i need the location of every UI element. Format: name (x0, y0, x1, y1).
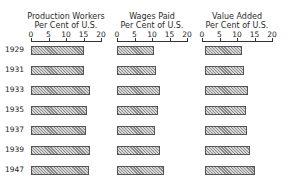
tick-label: 15 (248, 30, 262, 39)
tick-label: 5 (213, 30, 227, 39)
tick-label: 10 (145, 30, 159, 39)
tick-label: 15 (77, 30, 91, 39)
panel-title-line2: Per Cent of U.S. (107, 21, 197, 30)
panel-title: Production WorkersPer Cent of U.S. (21, 12, 111, 30)
panel-title-line2: Per Cent of U.S. (21, 21, 111, 30)
year-label: 1937 (2, 125, 24, 134)
tick-label: 15 (163, 30, 177, 39)
year-label: 1935 (2, 105, 24, 114)
panel-title-line1: Wages Paid (107, 12, 197, 21)
bar (117, 166, 164, 175)
tick-label: 0 (110, 30, 124, 39)
bar (117, 146, 160, 155)
tick-label: 10 (59, 30, 73, 39)
bar (31, 86, 90, 95)
year-label: 1933 (2, 85, 24, 94)
bar (205, 46, 242, 55)
panel-title-line2: Per Cent of U.S. (192, 21, 282, 30)
bar (117, 106, 158, 115)
bar (117, 46, 154, 55)
year-label: 1929 (2, 45, 24, 54)
panel-title-line1: Production Workers (21, 12, 111, 21)
bar (31, 126, 86, 135)
year-label: 1931 (2, 65, 24, 74)
year-label: 1939 (2, 145, 24, 154)
year-label: 1947 (2, 165, 24, 174)
bar (205, 86, 248, 95)
bar (31, 166, 89, 175)
bar (31, 46, 84, 55)
bar (117, 126, 155, 135)
tick-label: 10 (230, 30, 244, 39)
tick-label: 0 (195, 30, 209, 39)
tick-label: 20 (180, 30, 194, 39)
tick-label: 5 (42, 30, 56, 39)
tick-label: 20 (94, 30, 108, 39)
bar (117, 86, 160, 95)
panel-title: Wages PaidPer Cent of U.S. (107, 12, 197, 30)
bar (205, 166, 255, 175)
tick-label: 0 (24, 30, 38, 39)
bar (205, 66, 244, 75)
bar (31, 146, 90, 155)
bar (117, 66, 156, 75)
tick-label: 5 (128, 30, 142, 39)
bar (31, 106, 87, 115)
bar (205, 106, 246, 115)
bar (205, 126, 247, 135)
panel-title-line1: Value Added (192, 12, 282, 21)
tick-label: 20 (265, 30, 279, 39)
bar (31, 66, 84, 75)
bar (205, 146, 250, 155)
panel-title: Value AddedPer Cent of U.S. (192, 12, 282, 30)
